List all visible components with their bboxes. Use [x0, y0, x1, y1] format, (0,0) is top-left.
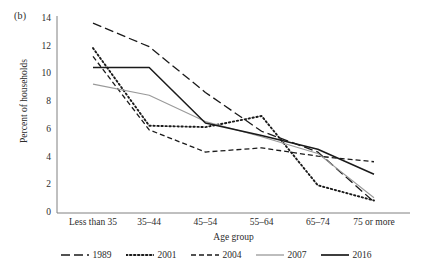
legend-item-2004[interactable]: 2004 — [191, 250, 242, 260]
legend-item-2016[interactable]: 2016 — [321, 250, 372, 260]
axis-lines — [57, 16, 410, 213]
legend-label: 1989 — [93, 250, 112, 260]
legend-label: 2004 — [223, 250, 242, 260]
series-line-2001 — [93, 48, 374, 200]
series-line-2004 — [93, 56, 374, 161]
legend-swatch-icon — [321, 251, 349, 259]
legend-label: 2016 — [353, 250, 372, 260]
legend-swatch-icon — [256, 251, 284, 259]
legend-swatch-icon — [61, 251, 89, 259]
series-line-2007 — [93, 84, 374, 198]
legend-item-1989[interactable]: 1989 — [61, 250, 112, 260]
legend-swatch-icon — [126, 251, 154, 259]
legend-item-2007[interactable]: 2007 — [256, 250, 307, 260]
legend-item-2001[interactable]: 2001 — [126, 250, 177, 260]
legend-label: 2001 — [158, 250, 177, 260]
chart-legend: 19892001200420072016 — [0, 250, 432, 260]
figure-panel-b: (b) Percent of households 02468101214 Le… — [0, 0, 432, 277]
series-line-1989 — [93, 23, 374, 202]
plot-area — [0, 0, 432, 277]
series-lines — [93, 23, 374, 202]
legend-label: 2007 — [288, 250, 307, 260]
legend-swatch-icon — [191, 251, 219, 259]
